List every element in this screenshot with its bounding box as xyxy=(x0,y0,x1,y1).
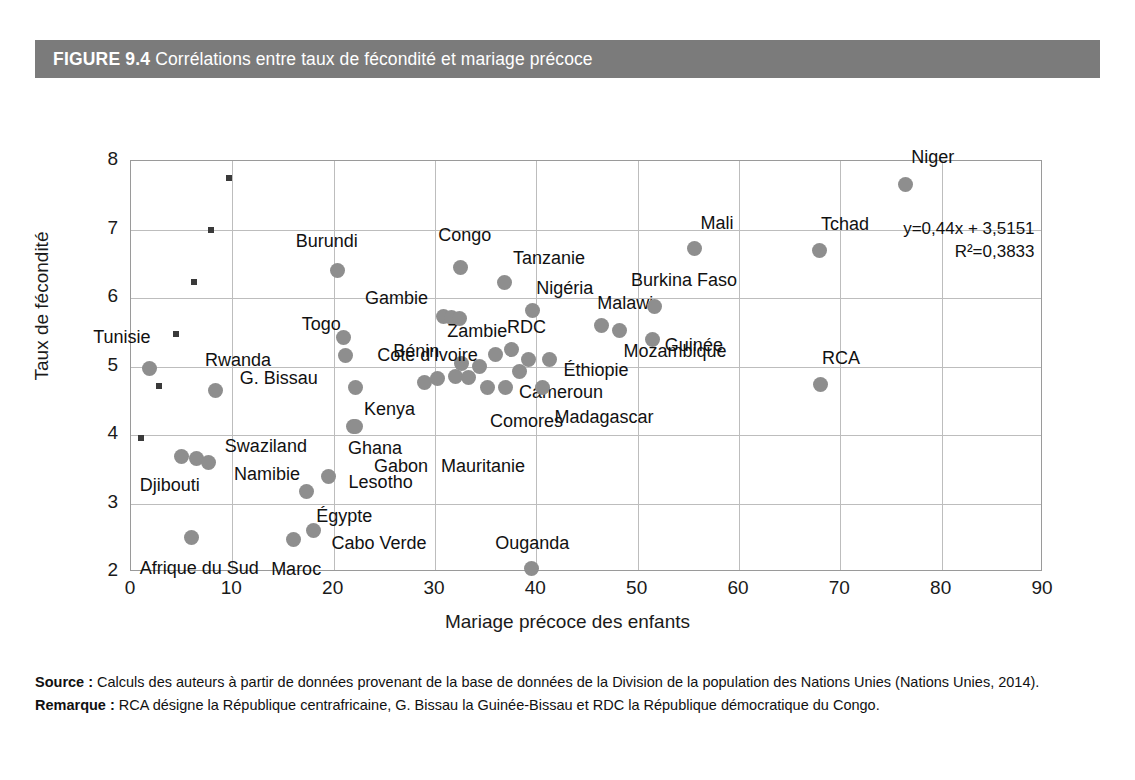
data-point xyxy=(453,260,468,275)
x-axis-title: Mariage précoce des enfants xyxy=(0,611,1135,633)
source-text: Calculs des auteurs à partir de données … xyxy=(93,674,1039,690)
point-label: Namibie xyxy=(234,465,300,483)
data-point xyxy=(813,377,828,392)
gridline-vertical xyxy=(536,161,537,570)
x-tick-label: 80 xyxy=(911,577,971,599)
data-point xyxy=(512,364,527,379)
data-point xyxy=(321,469,336,484)
point-label: Niger xyxy=(911,148,954,166)
point-label: Ouganda xyxy=(495,534,569,552)
trendline-marker xyxy=(173,331,179,337)
data-point xyxy=(299,484,314,499)
data-point xyxy=(687,241,702,256)
data-point xyxy=(417,375,432,390)
point-label: G. Bissau xyxy=(240,369,318,387)
gridline-horizontal xyxy=(131,298,1041,299)
data-point xyxy=(504,342,519,357)
data-point xyxy=(174,449,189,464)
point-label: Maroc xyxy=(271,560,321,578)
data-point xyxy=(142,361,157,376)
x-tick-label: 40 xyxy=(505,577,565,599)
source-note: Source : Calculs des auteurs à partir de… xyxy=(35,672,1100,694)
y-tick-label: 2 xyxy=(78,559,118,581)
data-point xyxy=(330,263,345,278)
figure-title-text: Corrélations entre taux de fécondité et … xyxy=(155,49,592,69)
data-point xyxy=(286,532,301,547)
figure-notes: Source : Calculs des auteurs à partir de… xyxy=(35,672,1100,718)
figure-number: FIGURE 9.4 xyxy=(53,49,150,69)
data-point xyxy=(612,323,627,338)
data-point xyxy=(535,380,550,395)
point-label: Ghana xyxy=(348,439,402,457)
trendline-marker xyxy=(226,175,232,181)
remark-note: Remarque : RCA désigne la République cen… xyxy=(35,695,1100,717)
point-label: RDC xyxy=(507,318,546,336)
gridline-vertical xyxy=(739,161,740,570)
point-label: Afrique du Sud xyxy=(140,559,259,577)
regression-r2-line: R²=0,3833 xyxy=(903,241,1034,264)
source-label: Source : xyxy=(35,674,93,690)
point-label: Guinée xyxy=(665,336,723,354)
data-point xyxy=(812,243,827,258)
gridline-horizontal xyxy=(131,504,1041,505)
data-point xyxy=(452,311,467,326)
data-point xyxy=(542,352,557,367)
point-label: Swaziland xyxy=(225,437,307,455)
point-label: Burundi xyxy=(296,232,358,250)
point-label: Malawi xyxy=(597,294,653,312)
scatter-chart: TunisieRwandaDjiboutiSwazilandNamibieAfr… xyxy=(0,95,1135,655)
y-axis-title: Taux de fécondité xyxy=(31,156,53,456)
data-point xyxy=(348,419,363,434)
y-tick-label: 6 xyxy=(78,285,118,307)
data-point xyxy=(472,359,487,374)
point-label: Djibouti xyxy=(140,476,200,494)
gridline-vertical xyxy=(638,161,639,570)
point-label: Mauritanie xyxy=(441,457,525,475)
y-tick-label: 4 xyxy=(78,422,118,444)
x-tick-label: 60 xyxy=(708,577,768,599)
data-point xyxy=(338,348,353,363)
remark-label: Remarque : xyxy=(35,697,115,713)
plot-area: TunisieRwandaDjiboutiSwazilandNamibieAfr… xyxy=(130,160,1042,571)
point-label: Togo xyxy=(302,315,341,333)
point-label: Madagascar xyxy=(554,408,653,426)
point-label: Kenya xyxy=(364,400,415,418)
point-label: Égypte xyxy=(316,507,372,525)
data-point xyxy=(524,561,539,576)
regression-equation: y=0,44x + 3,5151R²=0,3833 xyxy=(903,218,1034,264)
y-tick-label: 5 xyxy=(78,354,118,376)
point-label: Nigéria xyxy=(536,279,593,297)
regression-equation-line: y=0,44x + 3,5151 xyxy=(903,218,1034,241)
point-label: Gabon xyxy=(374,457,428,475)
point-label: Tchad xyxy=(821,215,869,233)
figure-title: FIGURE 9.4 Corrélations entre taux de fé… xyxy=(35,49,593,70)
data-point xyxy=(521,352,536,367)
point-label: Cabo Verde xyxy=(331,534,426,552)
gridline-vertical xyxy=(435,161,436,570)
point-label: Gambie xyxy=(365,289,428,307)
data-point xyxy=(480,380,495,395)
y-tick-label: 8 xyxy=(78,148,118,170)
data-point xyxy=(497,275,512,290)
x-tick-label: 50 xyxy=(607,577,667,599)
trendline-marker xyxy=(208,227,214,233)
point-label: Mali xyxy=(700,214,733,232)
x-tick-label: 70 xyxy=(809,577,869,599)
point-label: Tanzanie xyxy=(513,249,585,267)
data-point xyxy=(898,177,913,192)
point-label: Éthiopie xyxy=(564,361,629,379)
data-point xyxy=(594,318,609,333)
figure-header-bar: FIGURE 9.4 Corrélations entre taux de fé… xyxy=(35,40,1100,78)
data-point xyxy=(525,303,540,318)
data-point xyxy=(184,530,199,545)
data-point xyxy=(488,347,503,362)
x-tick-label: 10 xyxy=(201,577,261,599)
point-label: Cameroun xyxy=(519,383,603,401)
point-label: Burkina Faso xyxy=(631,271,737,289)
data-point xyxy=(498,380,513,395)
x-tick-label: 90 xyxy=(1012,577,1072,599)
point-label: Congo xyxy=(438,226,491,244)
point-label: Cote d'Ivoire xyxy=(377,346,478,364)
y-tick-label: 3 xyxy=(78,491,118,513)
point-label: RCA xyxy=(822,349,860,367)
